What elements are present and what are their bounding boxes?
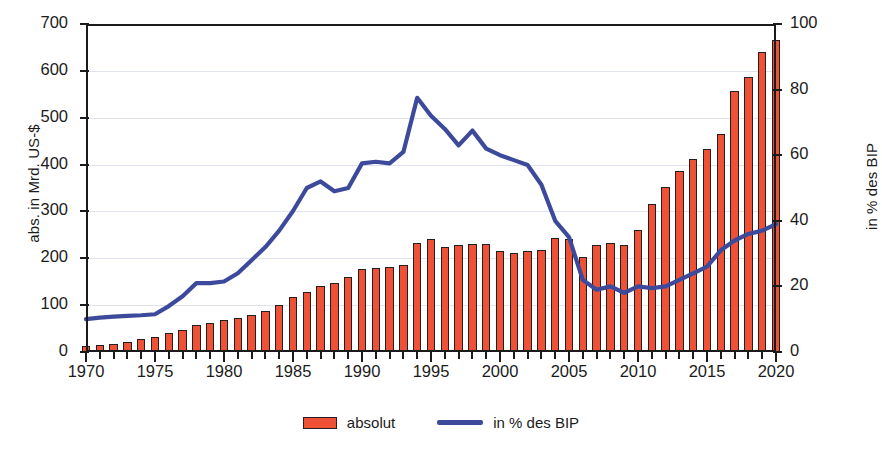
x-axis-label: 2010 <box>620 362 657 381</box>
x-axis-minor-tick <box>306 352 308 359</box>
x-axis-label: 2015 <box>689 362 726 381</box>
y-axis-right-label: 80 <box>790 79 808 98</box>
legend-item-in-prozent-des-bip[interactable]: in % des BIP <box>437 414 579 431</box>
x-axis-minor-tick <box>582 352 584 359</box>
legend-label-in-prozent-des-bip: in % des BIP <box>493 414 579 431</box>
x-axis-major-tick <box>568 352 570 362</box>
line-path <box>86 98 776 319</box>
y-axis-right-tick <box>773 285 782 287</box>
x-axis-label: 2000 <box>482 362 519 381</box>
x-axis-minor-tick <box>761 352 763 359</box>
x-axis-minor-tick <box>747 352 749 359</box>
x-axis-minor-tick <box>99 352 101 359</box>
x-axis-major-tick <box>775 352 777 362</box>
x-axis-minor-tick <box>195 352 197 359</box>
x-axis-minor-tick <box>471 352 473 359</box>
y-axis-left-tick <box>80 23 89 25</box>
x-axis-minor-tick <box>126 352 128 359</box>
x-axis-minor-tick <box>513 352 515 359</box>
x-axis-label: 1980 <box>206 362 243 381</box>
x-axis-minor-tick <box>347 352 349 359</box>
x-axis-minor-tick <box>720 352 722 359</box>
x-axis-minor-tick <box>416 352 418 359</box>
y-axis-left-label: 600 <box>40 60 68 79</box>
x-axis-label: 1975 <box>137 362 174 381</box>
x-axis-major-tick <box>223 352 225 362</box>
x-axis-minor-tick <box>264 352 266 359</box>
y-axis-right-label: 0 <box>790 341 799 360</box>
x-axis-major-tick <box>154 352 156 362</box>
x-axis-minor-tick <box>692 352 694 359</box>
x-axis-minor-tick <box>209 352 211 359</box>
x-axis-minor-tick <box>623 352 625 359</box>
x-axis-minor-tick <box>333 352 335 359</box>
x-axis-minor-tick <box>665 352 667 359</box>
y-axis-left-label: 500 <box>40 107 68 126</box>
x-axis-major-tick <box>292 352 294 362</box>
x-axis-minor-tick <box>609 352 611 359</box>
y-axis-left-tick <box>80 117 89 119</box>
y-axis-left-tick <box>80 164 89 166</box>
x-axis-label: 2020 <box>758 362 795 381</box>
y-axis-left-tick <box>80 70 89 72</box>
y-axis-right-tick <box>773 23 782 25</box>
x-axis-minor-tick <box>527 352 529 359</box>
x-axis-minor-tick <box>651 352 653 359</box>
x-axis-label: 1990 <box>344 362 381 381</box>
y-axis-left-tick <box>80 210 89 212</box>
y-axis-left-title: abs. in Mrd. US-$ <box>25 69 42 299</box>
y-axis-left-label: 300 <box>40 200 68 219</box>
y-axis-right-label: 40 <box>790 210 808 229</box>
x-axis-minor-tick <box>389 352 391 359</box>
y-axis-right-label: 20 <box>790 275 808 294</box>
y-axis-left-label: 0 <box>59 341 68 360</box>
y-axis-right-tick <box>773 89 782 91</box>
legend-line-swatch-icon <box>437 420 483 425</box>
line-series-in-prozent-des-bip <box>86 24 776 352</box>
x-axis-major-tick <box>430 352 432 362</box>
x-axis-minor-tick <box>402 352 404 359</box>
chart-root: abs. in Mrd. US-$ in % des BIP 010020030… <box>0 0 882 454</box>
x-axis-minor-tick <box>140 352 142 359</box>
x-axis-minor-tick <box>540 352 542 359</box>
x-axis-minor-tick <box>554 352 556 359</box>
x-axis-label: 2005 <box>551 362 588 381</box>
y-axis-left-label: 100 <box>40 294 68 313</box>
y-axis-right-label: 100 <box>790 13 818 32</box>
legend-item-absolut[interactable]: absolut <box>303 414 395 431</box>
x-axis-minor-tick <box>237 352 239 359</box>
x-axis-major-tick <box>85 352 87 362</box>
y-axis-left-label: 200 <box>40 247 68 266</box>
x-axis-minor-tick <box>734 352 736 359</box>
y-axis-right-tick <box>773 154 782 156</box>
x-axis-label: 1970 <box>68 362 105 381</box>
legend-label-absolut: absolut <box>347 414 395 431</box>
x-axis-label: 1995 <box>413 362 450 381</box>
x-axis-minor-tick <box>444 352 446 359</box>
x-axis-major-tick <box>706 352 708 362</box>
x-axis-major-tick <box>361 352 363 362</box>
x-axis-minor-tick <box>375 352 377 359</box>
y-axis-right-title: in % des BIP <box>863 72 880 302</box>
legend-bar-swatch-icon <box>303 417 337 429</box>
x-axis-minor-tick <box>596 352 598 359</box>
x-axis-minor-tick <box>113 352 115 359</box>
y-axis-right-tick <box>773 220 782 222</box>
x-axis-minor-tick <box>320 352 322 359</box>
x-axis-minor-tick <box>485 352 487 359</box>
x-axis-minor-tick <box>278 352 280 359</box>
y-axis-right-label: 60 <box>790 144 808 163</box>
x-axis-minor-tick <box>678 352 680 359</box>
plot-area <box>86 24 776 352</box>
x-axis-minor-tick <box>182 352 184 359</box>
chart-legend: absolut in % des BIP <box>0 414 882 431</box>
x-axis-label: 1985 <box>275 362 312 381</box>
x-axis-minor-tick <box>458 352 460 359</box>
y-axis-left-tick <box>80 304 89 306</box>
y-axis-left-label: 700 <box>40 13 68 32</box>
x-axis-major-tick <box>637 352 639 362</box>
x-axis-minor-tick <box>168 352 170 359</box>
x-axis-minor-tick <box>251 352 253 359</box>
x-axis-major-tick <box>499 352 501 362</box>
y-axis-left-tick <box>80 257 89 259</box>
